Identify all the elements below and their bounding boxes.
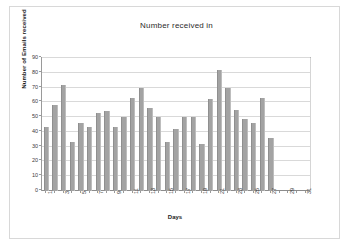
bar xyxy=(199,144,204,191)
x-tick-mark xyxy=(244,191,245,193)
x-tick-label: 29 xyxy=(290,188,295,194)
x-tick-label: 11 xyxy=(134,188,139,194)
x-tick-label: 17 xyxy=(186,188,191,194)
x-tick-label: 31 xyxy=(307,188,312,194)
x-tick-label: 23 xyxy=(238,188,243,194)
bar xyxy=(242,119,247,191)
y-tick-label: 10 xyxy=(23,172,38,178)
x-tick-label: 27 xyxy=(272,188,277,194)
gridline xyxy=(42,87,310,88)
bar xyxy=(113,127,118,191)
bar xyxy=(234,110,239,191)
plot-area xyxy=(41,57,311,191)
bar xyxy=(139,88,144,191)
y-tick-label: 70 xyxy=(23,84,38,90)
gridline xyxy=(42,57,310,58)
x-tick-label: 3 xyxy=(65,191,70,194)
y-tick-label: 50 xyxy=(23,113,38,119)
bar xyxy=(156,117,161,191)
bar-chart: Number received in Number of Emails rece… xyxy=(0,0,353,247)
x-tick-mark xyxy=(158,191,159,193)
bar xyxy=(165,142,170,191)
x-tick-mark xyxy=(140,191,141,193)
bar xyxy=(104,111,109,191)
gridline xyxy=(42,72,310,73)
bar xyxy=(70,142,75,191)
bar xyxy=(191,117,196,191)
x-tick-mark xyxy=(296,191,297,193)
x-tick-mark xyxy=(261,191,262,193)
x-tick-label: 15 xyxy=(169,188,174,194)
x-tick-label: 9 xyxy=(117,191,122,194)
gridline xyxy=(42,101,310,102)
x-tick-mark xyxy=(210,191,211,193)
y-tick-label: 90 xyxy=(23,54,38,60)
x-tick-label: 5 xyxy=(82,191,87,194)
bar xyxy=(173,129,178,191)
y-tick-label: 20 xyxy=(23,157,38,163)
bar xyxy=(121,117,126,191)
bar xyxy=(130,98,135,191)
x-axis-title: Days xyxy=(41,214,309,220)
x-tick-mark xyxy=(192,191,193,193)
x-tick-mark xyxy=(227,191,228,193)
y-tick-label: 30 xyxy=(23,143,38,149)
x-tick-label: 21 xyxy=(220,188,225,194)
x-tick-label: 25 xyxy=(255,188,260,194)
x-tick-mark xyxy=(89,191,90,193)
chart-title: Number received in xyxy=(0,21,353,30)
x-tick-mark xyxy=(54,191,55,193)
x-tick-label: 13 xyxy=(151,188,156,194)
y-tick-label: 40 xyxy=(23,128,38,134)
bar xyxy=(217,70,222,191)
bar xyxy=(78,123,83,191)
bar xyxy=(208,99,213,191)
bar xyxy=(87,127,92,191)
x-tick-mark xyxy=(123,191,124,193)
x-tick-mark xyxy=(279,191,280,193)
gridline xyxy=(42,116,310,117)
x-tick-mark xyxy=(175,191,176,193)
x-tick-mark xyxy=(71,191,72,193)
bar xyxy=(251,123,256,191)
bar xyxy=(52,105,57,191)
y-tick-label: 80 xyxy=(23,69,38,75)
x-axis-ticks: 135791113151719212325272931 xyxy=(41,191,309,213)
x-tick-label: 1 xyxy=(48,191,53,194)
y-tick-label: 0 xyxy=(23,187,38,193)
bar xyxy=(260,98,265,191)
bar xyxy=(96,113,101,191)
chart-page: Number received in Number of Emails rece… xyxy=(0,0,353,247)
bar xyxy=(44,127,49,191)
bar xyxy=(225,88,230,191)
x-tick-label: 19 xyxy=(203,188,208,194)
bar xyxy=(182,117,187,191)
bar xyxy=(268,138,273,191)
bar xyxy=(61,85,66,191)
y-tick-label: 60 xyxy=(23,98,38,104)
x-tick-label: 7 xyxy=(99,191,104,194)
x-tick-mark xyxy=(106,191,107,193)
bar xyxy=(147,108,152,191)
